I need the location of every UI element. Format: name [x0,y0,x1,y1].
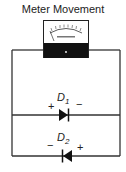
d2-plus: + [77,141,83,153]
d1-label: D1 [57,91,69,106]
diode-d2-icon [63,150,73,163]
diode-d1-icon [59,109,69,122]
circuit-diagram: D1 + − D2 − + [0,0,126,172]
d1-plus: + [48,100,54,112]
d2-label: D2 [57,131,70,146]
meter-icon [44,21,89,59]
d1-minus: − [76,98,82,110]
d2-minus: − [47,139,53,151]
